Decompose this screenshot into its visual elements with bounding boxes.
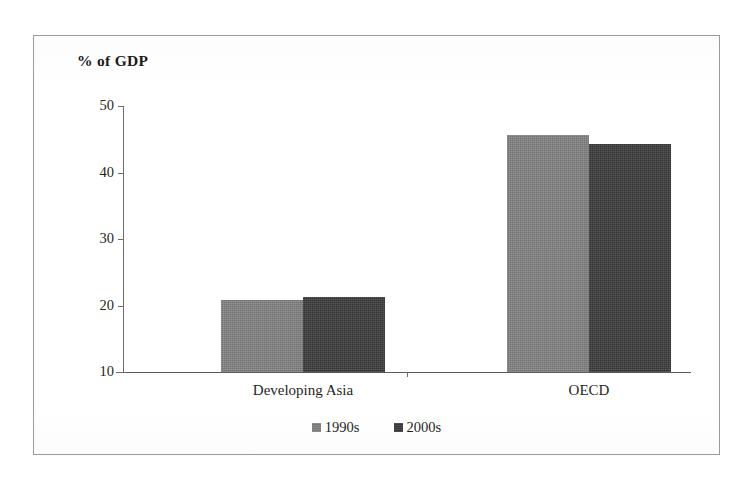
y-axis-tick-mark: [118, 173, 124, 174]
x-axis-tick-midpoint: [407, 372, 408, 377]
y-axis-tick-mark: [118, 106, 124, 107]
y-axis-tick-mark: [118, 306, 124, 307]
bar-oecd-2000s: [589, 144, 671, 372]
y-axis-tick-mark: [118, 239, 124, 240]
legend-entry-1990s: 1990s: [312, 419, 360, 436]
bar-developing-asia-2000s: [303, 297, 385, 372]
y-axis-tick-label: 40: [100, 164, 115, 181]
plot-area: 5040302010 Developing AsiaOECD: [123, 106, 691, 372]
bar-fill: [303, 297, 385, 372]
bar-fill: [221, 300, 303, 372]
legend-swatch-icon: [394, 423, 403, 432]
y-axis-tick-label: 20: [100, 297, 115, 314]
bar-developing-asia-1990s: [221, 300, 303, 372]
bar-fill: [507, 135, 589, 372]
bar-fill: [589, 144, 671, 372]
x-axis-category-label: Developing Asia: [253, 382, 353, 399]
y-axis-tick-mark: [116, 372, 125, 373]
y-axis-tick-label: 30: [100, 230, 115, 247]
bar-oecd-1990s: [507, 135, 589, 372]
legend-swatch-icon: [312, 423, 321, 432]
figure-frame: % of GDP 5040302010 Developing AsiaOECD …: [33, 35, 720, 455]
legend-label: 2000s: [407, 419, 442, 436]
x-axis-category-label: OECD: [569, 382, 610, 399]
chart-legend: 1990s2000s: [34, 419, 719, 436]
legend-entry-2000s: 2000s: [394, 419, 442, 436]
y-axis-tick-label: 50: [100, 97, 115, 114]
axis-title: % of GDP: [77, 52, 148, 70]
legend-label: 1990s: [325, 419, 360, 436]
y-axis-tick-label: 10: [100, 363, 115, 380]
